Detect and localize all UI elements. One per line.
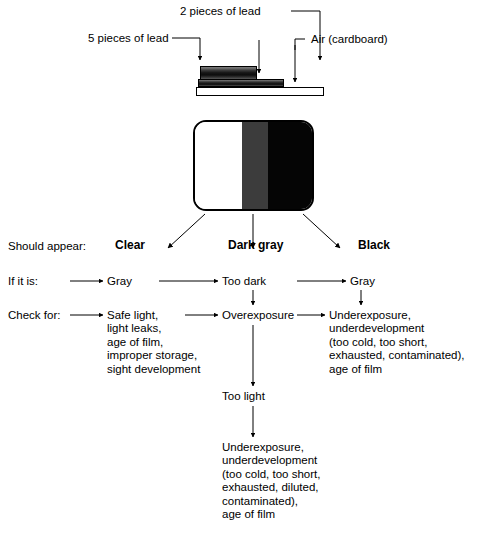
arrow-film-to-clear <box>168 214 205 248</box>
should-appear-value-black: Black <box>358 239 390 252</box>
label-air-cardboard: Air (cardboard) <box>311 33 388 46</box>
check-for-column-black-causes: Underexposure, underdevelopment (too col… <box>329 309 465 376</box>
if-it-is-value-gray-right: Gray <box>350 275 375 288</box>
film-band-clear <box>195 122 242 209</box>
should-appear-value-dark-gray: Dark gray <box>228 239 283 252</box>
five-lead-block-layer <box>200 66 257 80</box>
row-label-check-for: Check for: <box>8 309 60 322</box>
branch-too-light-causes: Underexposure, underdevelopment (too col… <box>222 441 320 521</box>
two-lead-block-layer <box>198 79 284 87</box>
row-label-if-it-is: If it is: <box>8 275 38 288</box>
label-five-pieces-of-lead: 5 pieces of lead <box>88 32 169 45</box>
check-for-column-clear-causes: Safe light, light leaks, age of film, im… <box>107 309 200 376</box>
arrow-film-to-black <box>303 214 340 248</box>
film-band-black <box>268 122 312 209</box>
branch-label-too-light: Too light <box>222 390 265 403</box>
label-two-pieces-of-lead: 2 pieces of lead <box>180 5 261 18</box>
radiograph-film-strip <box>193 120 314 211</box>
row-label-should-appear: Should appear: <box>8 240 86 253</box>
should-appear-value-clear: Clear <box>115 239 145 252</box>
if-it-is-value-too-dark: Too dark <box>222 275 266 288</box>
cardboard-base-layer <box>196 87 324 96</box>
check-for-column-overexposure: Overexposure <box>222 309 294 322</box>
leader-air-elbow <box>295 39 305 50</box>
film-band-dark-gray <box>242 122 268 209</box>
diagram-canvas: 2 pieces of lead 5 pieces of lead Air (c… <box>0 0 503 539</box>
if-it-is-value-gray-left: Gray <box>107 275 132 288</box>
leader-five-pieces-of-lead <box>172 38 200 60</box>
